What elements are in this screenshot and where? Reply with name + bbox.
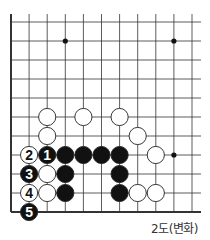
- black-stone-circle: [111, 184, 128, 201]
- move-number-label: 3: [25, 166, 33, 182]
- white-stone-circle: [39, 108, 56, 125]
- white-stone: [39, 165, 56, 182]
- black-stone: [111, 184, 128, 201]
- black-stone-circle: [111, 146, 128, 163]
- black-stone: 1: [39, 146, 56, 163]
- black-stone: [111, 165, 128, 182]
- hoshi-point: [171, 38, 176, 43]
- black-stone-circle: [93, 146, 110, 163]
- black-stone: 5: [21, 203, 38, 220]
- white-stone: [129, 127, 146, 144]
- black-stone: [57, 184, 74, 201]
- hoshi-point: [171, 152, 176, 157]
- stones: 21345: [21, 108, 165, 220]
- white-stone: [39, 127, 56, 144]
- black-stone: [57, 165, 74, 182]
- black-stone-circle: [57, 146, 74, 163]
- move-number-label: 1: [43, 147, 51, 163]
- go-board: 21345: [0, 0, 210, 225]
- black-stone-circle: [75, 146, 92, 163]
- black-stone: [75, 146, 92, 163]
- black-stone: 3: [21, 165, 38, 182]
- white-stone-circle: [75, 108, 92, 125]
- white-stone: [75, 108, 92, 125]
- white-stone-circle: [129, 184, 146, 201]
- black-stone: [57, 146, 74, 163]
- move-number-label: 2: [25, 147, 33, 163]
- white-stone-circle: [39, 165, 56, 182]
- white-stone-circle: [147, 184, 164, 201]
- white-stone: [111, 108, 128, 125]
- black-stone-circle: [111, 165, 128, 182]
- white-stone-circle: [129, 127, 146, 144]
- move-number-label: 5: [25, 204, 33, 220]
- black-stone-circle: [57, 184, 74, 201]
- white-stone: [39, 184, 56, 201]
- black-stone-circle: [57, 165, 74, 182]
- black-stone: [93, 146, 110, 163]
- hoshi-point: [63, 38, 68, 43]
- white-stone: [147, 146, 164, 163]
- white-stone-circle: [39, 184, 56, 201]
- move-number-label: 4: [25, 185, 33, 201]
- white-stone: [147, 184, 164, 201]
- white-stone: [129, 184, 146, 201]
- black-stone: [111, 146, 128, 163]
- white-stone: [39, 108, 56, 125]
- diagram-caption: 2도(변화): [151, 219, 198, 236]
- white-stone-circle: [111, 108, 128, 125]
- white-stone: 2: [21, 146, 38, 163]
- white-stone: 4: [21, 184, 38, 201]
- white-stone-circle: [39, 127, 56, 144]
- white-stone-circle: [147, 146, 164, 163]
